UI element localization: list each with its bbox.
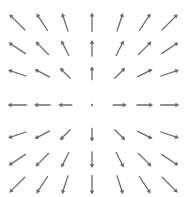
arrow-icon xyxy=(139,177,150,194)
arrow-icon xyxy=(90,176,94,195)
arrow-icon xyxy=(162,154,179,165)
arrow-icon xyxy=(162,42,179,53)
arrow-icon xyxy=(116,41,124,56)
arrow-icon xyxy=(161,103,180,107)
arrow-icon xyxy=(60,130,70,140)
arrow-icon xyxy=(113,103,127,107)
arrow-icon xyxy=(90,40,94,56)
arrow-icon xyxy=(162,14,178,30)
arrow-icon xyxy=(9,42,26,53)
arrow-icon xyxy=(8,103,27,107)
arrow-icon xyxy=(35,69,50,77)
arrow-icon xyxy=(162,177,178,193)
arrow-icon xyxy=(137,103,153,107)
arrow-icon xyxy=(36,14,47,31)
arrow-icon xyxy=(138,69,153,77)
arrow-icon xyxy=(61,41,69,56)
arrow-icon xyxy=(61,153,69,168)
arrow-icon xyxy=(9,14,25,30)
arrow-icon xyxy=(58,103,72,107)
arrow-icon xyxy=(116,153,124,168)
arrow-icon xyxy=(138,131,153,139)
vector-arrows xyxy=(8,13,180,195)
arrow-icon xyxy=(117,13,124,31)
arrow-icon xyxy=(36,154,49,167)
arrow-icon xyxy=(90,152,94,168)
arrow-icon xyxy=(90,13,94,32)
arrow-icon xyxy=(117,176,124,194)
arrow-icon xyxy=(139,14,150,31)
arrow-icon xyxy=(90,66,94,80)
arrow-icon xyxy=(36,177,47,194)
vector-field-diagram xyxy=(0,0,191,197)
arrow-icon xyxy=(61,13,68,31)
arrow-icon xyxy=(161,69,179,76)
arrow-icon xyxy=(8,69,26,76)
origin-point xyxy=(91,104,93,106)
arrow-icon xyxy=(61,176,68,194)
arrow-icon xyxy=(9,154,26,165)
arrow-icon xyxy=(139,154,152,167)
arrow-icon xyxy=(115,68,125,78)
arrow-icon xyxy=(35,131,50,139)
arrow-icon xyxy=(9,177,25,193)
arrow-icon xyxy=(60,68,70,78)
arrow-icon xyxy=(115,130,125,140)
arrow-icon xyxy=(139,42,152,55)
arrow-icon xyxy=(8,132,26,139)
arrow-icon xyxy=(90,128,94,142)
arrow-icon xyxy=(36,42,49,55)
arrow-icon xyxy=(34,103,50,107)
arrow-icon xyxy=(161,132,179,139)
